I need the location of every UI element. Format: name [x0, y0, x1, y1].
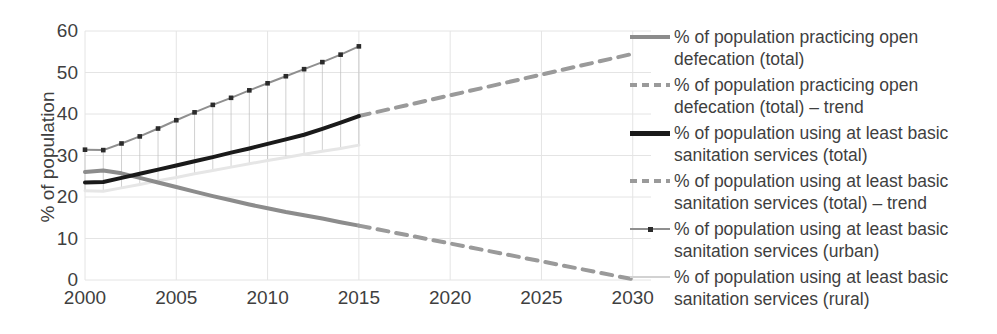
chart-plot-region: % of population 6050403020100 2000200520…	[0, 0, 665, 334]
legend-item-label: % of population practicing open defecati…	[674, 26, 997, 70]
solid-black-line-icon	[628, 122, 672, 144]
legend-item[interactable]: % of population practicing open defecati…	[628, 74, 997, 118]
legend-item-label: % of population practicing open defecati…	[674, 74, 997, 118]
legend-item[interactable]: % of population using at least basic san…	[628, 170, 997, 214]
legend-item[interactable]: % of population practicing open defecati…	[628, 26, 997, 70]
legend-item-label: % of population using at least basic san…	[674, 122, 997, 166]
x-tick-label: 2010	[233, 288, 303, 307]
chart-legend: % of population practicing open defecati…	[628, 26, 997, 326]
dashed-gray-line-icon	[628, 74, 672, 96]
y-tick-label: 30	[44, 146, 78, 165]
data-markers-layer	[83, 44, 361, 152]
legend-square-marker-icon	[648, 227, 653, 232]
light-gray-line-icon	[628, 266, 672, 288]
solid-gray-line-icon	[628, 26, 672, 48]
legend-item-label: % of population using at least basic san…	[674, 170, 997, 214]
y-tick-label: 40	[44, 104, 78, 123]
x-tick-label: 2005	[141, 288, 211, 307]
x-tick-label: 2025	[506, 288, 576, 307]
legend-item[interactable]: % of population using at least basic san…	[628, 122, 997, 166]
y-tick-label: 50	[44, 63, 78, 82]
gray-line-with-square-marker-icon	[628, 218, 672, 240]
x-tick-label: 2020	[415, 288, 485, 307]
x-axis-tick-labels: 2000200520102015202020252030	[0, 288, 665, 318]
x-tick-label: 2000	[50, 288, 120, 307]
y-tick-label: 20	[44, 187, 78, 206]
line-chart-svg	[0, 0, 665, 334]
y-tick-label: 10	[44, 229, 78, 248]
legend-item-label: % of population using at least basic san…	[674, 218, 997, 262]
legend-item-label: % of population using at least basic san…	[674, 266, 997, 310]
legend-item[interactable]: % of population using at least basic san…	[628, 218, 997, 262]
y-tick-label: 60	[44, 21, 78, 40]
dashed-gray-line-icon	[628, 170, 672, 192]
y-axis-tick-labels: 6050403020100	[42, 0, 78, 334]
x-tick-label: 2015	[324, 288, 394, 307]
legend-item[interactable]: % of population using at least basic san…	[628, 266, 997, 310]
chart-screenshot: % of population 6050403020100 2000200520…	[0, 0, 997, 334]
